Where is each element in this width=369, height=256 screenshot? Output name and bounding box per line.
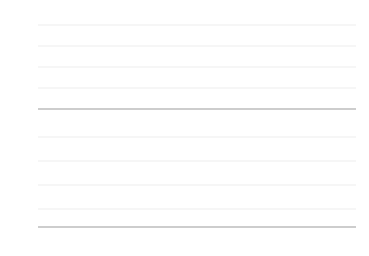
gridlines-percentage (38, 137, 356, 209)
gridlines-billions (38, 25, 356, 88)
chart-panel-billions (0, 0, 369, 120)
plot-area-billions (0, 0, 369, 120)
plot-area-percentage (0, 118, 369, 238)
trade-chart-figure (0, 0, 369, 256)
chart-panel-percentage (0, 118, 369, 256)
